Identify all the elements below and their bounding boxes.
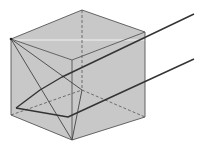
top-left-vertex-dot [10,38,13,41]
cube-diagram [0,0,207,147]
